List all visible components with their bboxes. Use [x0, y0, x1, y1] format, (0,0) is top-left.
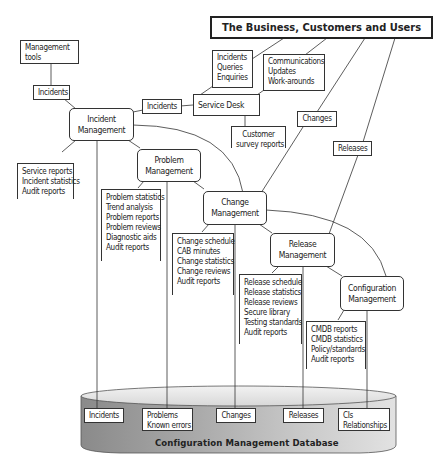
release-outputs-doc: Release schedule Release statistics Rele… [239, 274, 302, 344]
service-desk-box: Service Desk [193, 94, 260, 116]
cmdb-label: Configuration Management Database [155, 437, 339, 448]
incidents-tools-label: Incidents [33, 85, 70, 100]
config-outputs-doc: CMDB reports CMDB statistics Policy/stan… [306, 321, 366, 369]
desk-inputs-box: Incidents Queries Enquiries [212, 50, 253, 88]
problem-outputs-doc: Problem statistics Trend analysis Proble… [101, 189, 161, 261]
problem-management-box: Problem Management [137, 149, 201, 182]
title-text: The Business, Customers and Users [222, 23, 421, 33]
business-customers-users-box: The Business, Customers and Users [210, 16, 433, 39]
db-record-cis: CIs Relationships [338, 408, 390, 431]
db-record-incidents: Incidents [84, 408, 124, 423]
db-record-problems: Problems Known errors [142, 408, 193, 431]
db-record-changes: Changes [216, 408, 256, 423]
incident-management-box: Incident Management [69, 108, 134, 141]
change-outputs-doc: Change schedule CAB minutes Change stati… [172, 233, 234, 295]
configuration-management-box: Configuration Management [340, 276, 404, 311]
change-management-box: Change Management [203, 191, 267, 225]
management-tools-box: Management tools [20, 40, 79, 64]
incidents-desk-label: Incidents [142, 99, 182, 114]
customer-survey-doc: Customer survey reports [231, 126, 286, 148]
changes-label: Changes [297, 111, 337, 127]
db-record-releases: Releases [283, 408, 324, 423]
incident-outputs-doc: Service reports Incident statistics Audi… [17, 163, 74, 199]
releases-label: Releases [333, 141, 372, 156]
release-management-box: Release Management [270, 233, 335, 267]
desk-outputs-box: Communications Updates Work-arounds [263, 54, 325, 91]
itil-service-support-diagram: The Business, Customers and Users Manage… [0, 0, 439, 459]
